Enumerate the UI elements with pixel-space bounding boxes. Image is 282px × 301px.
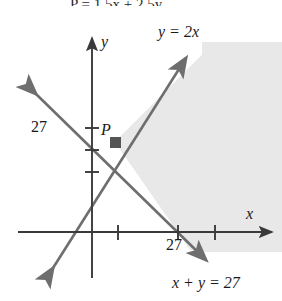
vertex-p-marker <box>110 137 121 148</box>
x-axis-tick-label-27: 27 <box>166 237 182 253</box>
x-axis-label: x <box>246 206 253 222</box>
line-label-x-plus-y-equals-27: x + y = 27 <box>172 275 240 291</box>
graph-figure: P = 1.5x + 2.5y y x y = 2x x + y = 27 27… <box>0 0 282 301</box>
coordinate-plane-svg <box>0 0 282 301</box>
feasible-region <box>115 42 282 252</box>
line-label-y-equals-2x: y = 2x <box>158 24 199 40</box>
objective-function-text: P = 1.5x + 2.5y <box>70 0 162 6</box>
y-axis-label: y <box>101 34 108 50</box>
y-axis <box>85 38 99 278</box>
vertex-p-label: P <box>101 122 111 138</box>
y-axis-tick-label-27: 27 <box>31 119 47 135</box>
